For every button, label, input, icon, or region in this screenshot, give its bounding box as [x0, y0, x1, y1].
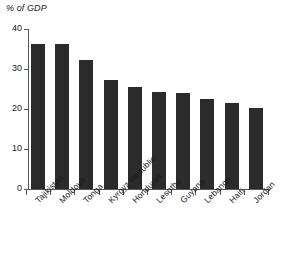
- bar: [200, 99, 214, 189]
- y-axis-tick-label: 30: [0, 63, 22, 73]
- y-axis-tick-label: 0: [0, 183, 22, 193]
- y-axis-tick: [24, 69, 29, 70]
- bar: [55, 44, 69, 189]
- x-axis-tick: [26, 190, 27, 195]
- y-axis-tick: [24, 29, 29, 30]
- y-axis-tick-label: 10: [0, 143, 22, 153]
- y-axis-tick: [24, 109, 29, 110]
- plot-area: 010203040 TajikistanMoldovaTongaKyrgyz R…: [0, 0, 288, 257]
- y-axis-tick: [24, 149, 29, 150]
- bar: [31, 44, 45, 189]
- bar: [249, 108, 263, 189]
- bar: [176, 93, 190, 189]
- bar: [79, 60, 93, 189]
- y-axis-tick-label: 40: [0, 23, 22, 33]
- bar-chart-figure: % of GDP 010203040 TajikistanMoldovaTong…: [0, 0, 288, 257]
- bar: [104, 80, 118, 189]
- y-axis-tick-label: 20: [0, 103, 22, 113]
